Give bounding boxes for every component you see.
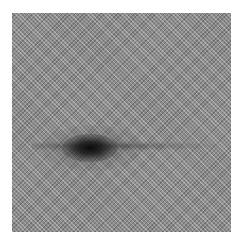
dark-blob — [62, 134, 118, 162]
horizontal-dark-band — [32, 141, 222, 151]
image-frame — [12, 13, 231, 232]
